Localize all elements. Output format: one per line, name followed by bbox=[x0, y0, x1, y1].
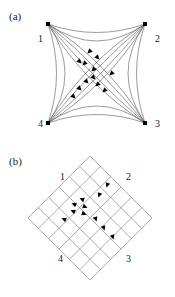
panel-b-node-label-4: 4 bbox=[58, 254, 63, 264]
arrowhead-icon bbox=[81, 60, 88, 67]
figure-page: (a) 1 2 3 4 (b) 1 2 3 4 bbox=[0, 0, 175, 297]
panel-b-lattice bbox=[28, 156, 152, 280]
graph-edge bbox=[48, 24, 145, 123]
graph-node bbox=[143, 22, 147, 26]
graph-edge bbox=[48, 24, 57, 123]
graph-node bbox=[46, 121, 50, 125]
graph-edge bbox=[48, 24, 145, 123]
arrowhead-icon bbox=[94, 54, 101, 61]
graph-edge bbox=[48, 24, 145, 33]
panel-b-node-label-1: 1 bbox=[60, 172, 65, 182]
arrowhead-icon bbox=[83, 78, 90, 85]
arrowhead-icon bbox=[70, 208, 76, 214]
arrowhead-icon bbox=[79, 196, 85, 202]
arrowhead-icon bbox=[94, 81, 101, 88]
arrowhead-icon bbox=[108, 70, 115, 77]
graph-edge bbox=[48, 24, 145, 123]
graph-edge bbox=[137, 24, 146, 123]
arrowhead-icon bbox=[86, 48, 93, 55]
panel-a-node-label-4: 4 bbox=[38, 119, 43, 129]
panel-b-graphic bbox=[0, 148, 175, 297]
arrowhead-icon bbox=[70, 93, 77, 100]
arrowhead-icon bbox=[76, 85, 83, 92]
panel-a-nodes bbox=[46, 22, 147, 125]
arrowhead-icon bbox=[82, 204, 88, 210]
graph-node bbox=[143, 121, 147, 125]
arrowhead-icon bbox=[81, 211, 87, 217]
arrowhead-icon bbox=[104, 182, 110, 188]
panel-a-graphic bbox=[0, 0, 175, 148]
panel-b-node-label-2: 2 bbox=[126, 172, 131, 182]
graph-edge bbox=[48, 24, 145, 123]
arrowhead-icon bbox=[101, 225, 107, 231]
graph-edge bbox=[48, 24, 145, 123]
panel-a: (a) 1 2 3 4 bbox=[0, 0, 175, 148]
panel-a-node-label-2: 2 bbox=[155, 34, 160, 44]
panel-a-node-label-3: 3 bbox=[155, 119, 160, 129]
panel-b-node-label-3: 3 bbox=[126, 254, 131, 264]
graph-edge bbox=[48, 24, 145, 123]
graph-node bbox=[46, 22, 50, 26]
panel-a-node-label-1: 1 bbox=[38, 34, 43, 44]
graph-edge bbox=[48, 115, 145, 124]
graph-edge bbox=[48, 24, 145, 123]
arrowhead-icon bbox=[110, 234, 116, 240]
panel-a-edges bbox=[48, 24, 145, 123]
panel-b-markers bbox=[61, 182, 116, 240]
panel-b: (b) 1 2 3 4 bbox=[0, 148, 175, 297]
graph-edge bbox=[48, 24, 145, 123]
arrowhead-icon bbox=[96, 192, 102, 198]
